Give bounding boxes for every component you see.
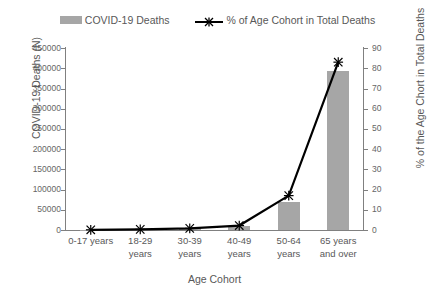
y-left-tick-2: 100000 xyxy=(33,185,61,194)
y-right-tickmark-5 xyxy=(364,129,368,130)
y-right-tickmark-3 xyxy=(364,169,368,170)
y-axis-left-title: COVID-19 Deaths (N) xyxy=(30,8,42,168)
x-axis-category-2: 30-39 years xyxy=(165,234,215,272)
y-left-tickmark-0 xyxy=(61,230,65,231)
y-right-tick-4: 40 xyxy=(372,145,381,154)
y-left-tick-1: 50000 xyxy=(37,205,61,214)
y-right-tickmark-9 xyxy=(364,48,368,49)
chart-legend: COVID-19 Deaths % of Age Cohort in Total… xyxy=(0,10,435,30)
line-marker-2 xyxy=(185,224,195,234)
line-marker-1 xyxy=(135,225,145,235)
y-left-tickmark-4 xyxy=(61,149,65,150)
x-axis-category-0: 0-17 years xyxy=(66,234,116,272)
y-right-tickmark-2 xyxy=(364,190,368,191)
y-right-tickmark-4 xyxy=(364,149,368,150)
x-axis-category-5: 65 years and over xyxy=(314,234,364,272)
y-right-tick-3: 30 xyxy=(372,165,381,174)
y-right-tick-5: 50 xyxy=(372,124,381,133)
x-axis-category-3: 40-49 years xyxy=(215,234,265,272)
y-right-tickmark-0 xyxy=(364,230,368,231)
y-right-tick-6: 60 xyxy=(372,104,381,113)
y-axis-right-title: % of the Age Chort in Total Deaths xyxy=(414,0,426,181)
y-right-tick-9: 90 xyxy=(372,44,381,53)
legend-item-covid-deaths: COVID-19 Deaths xyxy=(60,14,170,26)
y-right-tick-0: 0 xyxy=(372,226,377,235)
y-right-tickmark-7 xyxy=(364,89,368,90)
y-left-tickmark-6 xyxy=(61,109,65,110)
x-axis-title: Age Cohort xyxy=(66,273,363,285)
y-right-tick-2: 20 xyxy=(372,185,381,194)
legend-label-covid-deaths: COVID-19 Deaths xyxy=(85,14,170,26)
chart-figure: COVID-19 Deaths % of Age Cohort in Total… xyxy=(0,0,435,298)
y-left-tickmark-8 xyxy=(61,68,65,69)
y-right-tick-8: 80 xyxy=(372,64,381,73)
y-left-tickmark-9 xyxy=(61,48,65,49)
x-axis-category-4: 50-64 years xyxy=(264,234,314,272)
legend-label-percent-cohort: % of Age Cohort in Total Deaths xyxy=(226,14,375,26)
line-marker-4 xyxy=(284,191,294,201)
y-left-tickmark-2 xyxy=(61,190,65,191)
line-marker-5 xyxy=(333,57,343,67)
y-left-tickmark-1 xyxy=(61,210,65,211)
y-axis-right-line xyxy=(363,47,364,231)
y-right-tick-7: 70 xyxy=(372,84,381,93)
line-x-swatch-icon xyxy=(195,14,223,26)
legend-item-percent-cohort: % of Age Cohort in Total Deaths xyxy=(195,14,375,26)
line-series xyxy=(66,48,363,230)
y-right-tickmark-6 xyxy=(364,109,368,110)
y-left-tickmark-5 xyxy=(61,129,65,130)
x-axis-category-1: 18-29 years xyxy=(116,234,166,272)
plot-area xyxy=(66,48,363,230)
bar-swatch-icon xyxy=(60,16,82,24)
line-marker-3 xyxy=(234,221,244,231)
y-right-tickmark-1 xyxy=(364,210,368,211)
y-right-tick-1: 10 xyxy=(372,205,381,214)
y-left-tickmark-3 xyxy=(61,169,65,170)
y-left-tickmark-7 xyxy=(61,89,65,90)
x-axis-category-labels: 0-17 years18-29 years30-39 years40-49 ye… xyxy=(66,234,363,272)
y-right-tickmark-8 xyxy=(364,68,368,69)
